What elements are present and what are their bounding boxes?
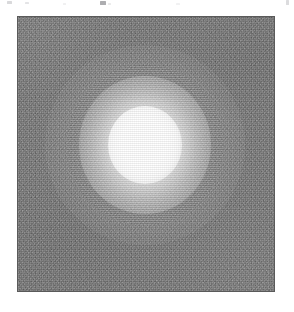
glyph-fragment	[7, 1, 12, 4]
cropped-header-text-remnant	[0, 0, 294, 8]
glyph-fragment	[25, 2, 29, 4]
glyph-fragment	[286, 0, 289, 5]
glyph-fragment	[63, 3, 66, 5]
page-root	[0, 0, 294, 312]
noise-field-grain-b	[18, 17, 274, 291]
glyph-fragment	[108, 3, 111, 5]
glyph-fragment	[176, 3, 180, 5]
grayscale-image-panel	[18, 17, 274, 291]
glyph-fragment	[100, 1, 106, 5]
